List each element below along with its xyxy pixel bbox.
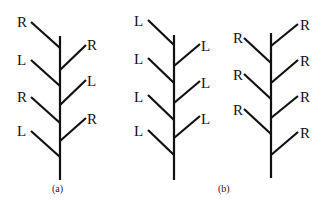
label: L xyxy=(17,123,26,139)
branch-left xyxy=(148,58,174,83)
label: R xyxy=(300,17,310,33)
label: R xyxy=(17,89,27,105)
branch-right xyxy=(271,96,298,118)
tree-b-right: R R R R R R R xyxy=(233,17,310,178)
label: L xyxy=(134,89,143,105)
branch-right xyxy=(174,116,200,138)
label: R xyxy=(87,111,97,127)
tree-b-left: L L L L L L L xyxy=(134,13,210,180)
label: L xyxy=(201,38,210,54)
branch-left xyxy=(148,20,174,45)
branch-left xyxy=(31,22,60,48)
branch-right xyxy=(60,45,86,70)
branching-diagram: R L R L R L R (a) L L L L L L L R R xyxy=(0,0,322,208)
label: R xyxy=(300,125,310,141)
branch-right xyxy=(271,132,298,155)
label: L xyxy=(134,51,143,67)
label: R xyxy=(233,67,243,83)
label: L xyxy=(17,52,26,68)
label: R xyxy=(233,102,243,118)
branch-left xyxy=(244,74,271,99)
caption-b: (b) xyxy=(218,183,230,195)
branch-left xyxy=(31,60,60,86)
label: L xyxy=(134,13,143,29)
label: R xyxy=(233,30,243,46)
branch-right xyxy=(174,81,200,103)
branch-left xyxy=(148,130,174,155)
label: L xyxy=(87,73,96,89)
branch-right xyxy=(271,60,298,83)
label: L xyxy=(134,123,143,139)
branch-right xyxy=(271,24,298,46)
label: L xyxy=(201,111,210,127)
label: R xyxy=(17,14,27,30)
label: R xyxy=(87,37,97,53)
label: R xyxy=(300,53,310,69)
branch-left xyxy=(244,38,271,63)
branch-left xyxy=(244,109,271,134)
branch-left xyxy=(31,131,60,157)
branch-right xyxy=(174,44,200,66)
tree-a: R L R L R L R (a) xyxy=(17,14,97,195)
caption-a: (a) xyxy=(52,183,63,195)
label: R xyxy=(300,89,310,105)
branch-right xyxy=(60,80,86,105)
branch-left xyxy=(148,95,174,120)
branch-left xyxy=(31,97,60,123)
branch-right xyxy=(60,118,86,141)
label: L xyxy=(201,75,210,91)
